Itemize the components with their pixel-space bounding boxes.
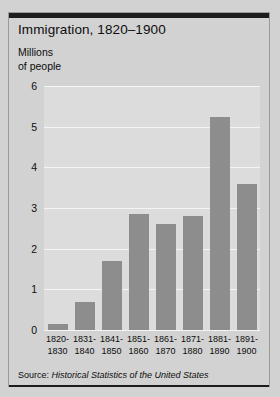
x-axis-tick-line: 1871- [179, 334, 206, 346]
chart-title: Immigration, 1820–1900 [18, 22, 166, 37]
bottom-rule [9, 385, 269, 387]
x-axis-tick-label: 1871-1880 [179, 334, 206, 357]
x-axis-tick-line: 1861- [152, 334, 179, 346]
bar [210, 117, 230, 331]
x-axis-tick-label: 1891-1900 [233, 334, 260, 357]
y-axis-label: Millions of people [18, 46, 61, 73]
y-axis-label-line-2: of people [18, 60, 61, 74]
bar [237, 184, 257, 330]
plot-area: 0123456 1820-18301831-18401841-18501851-… [44, 86, 260, 330]
gridline [44, 330, 260, 331]
top-rule [9, 13, 269, 18]
bar [75, 302, 95, 330]
y-axis-tick-label: 6 [31, 80, 37, 92]
source-title: Historical Statistics of the United Stat… [52, 370, 209, 380]
y-axis-tick-label: 4 [31, 161, 37, 173]
bar [156, 224, 176, 330]
x-axis-tick-line: 1890 [206, 346, 233, 358]
gridline [44, 86, 260, 87]
bar [102, 261, 122, 330]
x-axis-tick-label: 1820-1830 [44, 334, 71, 357]
bar [48, 324, 68, 330]
bar [129, 214, 149, 330]
y-axis-tick-label: 1 [31, 283, 37, 295]
source-note: Source: Historical Statistics of the Uni… [18, 370, 209, 380]
x-axis-tick-line: 1900 [233, 346, 260, 358]
x-axis-tick-line: 1850 [98, 346, 125, 358]
x-axis-tick-label: 1861-1870 [152, 334, 179, 357]
x-axis-tick-line: 1831- [71, 334, 98, 346]
source-label: Source: [18, 370, 49, 380]
y-axis-label-line-1: Millions [18, 46, 61, 60]
x-axis-tick-line: 1840 [71, 346, 98, 358]
x-axis-tick-line: 1860 [125, 346, 152, 358]
y-axis-tick-label: 5 [31, 121, 37, 133]
x-axis-tick-label: 1851-1860 [125, 334, 152, 357]
x-axis-tick-line: 1891- [233, 334, 260, 346]
y-axis-tick-label: 0 [31, 324, 37, 336]
x-axis-tick-line: 1820- [44, 334, 71, 346]
x-axis-tick-label: 1881-1890 [206, 334, 233, 357]
x-axis-tick-line: 1881- [206, 334, 233, 346]
x-axis-tick-label: 1831-1840 [71, 334, 98, 357]
x-axis-tick-line: 1870 [152, 346, 179, 358]
x-axis-tick-line: 1880 [179, 346, 206, 358]
x-axis-tick-line: 1851- [125, 334, 152, 346]
x-axis-tick-line: 1830 [44, 346, 71, 358]
x-axis-tick-label: 1841-1850 [98, 334, 125, 357]
x-axis-tick-line: 1841- [98, 334, 125, 346]
bar [183, 216, 203, 330]
y-axis-tick-label: 3 [31, 202, 37, 214]
immigration-bar-chart-figure: Immigration, 1820–1900 Millions of peopl… [0, 0, 280, 397]
y-axis-tick-label: 2 [31, 243, 37, 255]
